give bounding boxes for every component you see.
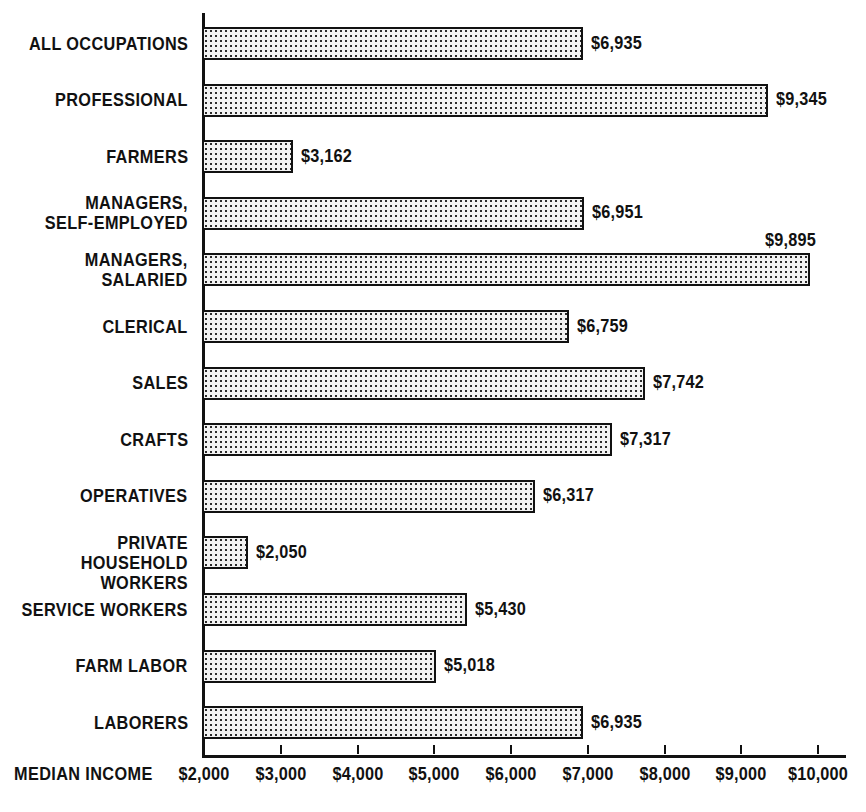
x-axis-tick-label: $2,000 (179, 764, 230, 785)
bar (202, 140, 293, 173)
bar (202, 480, 535, 513)
category-label: CLERICAL (103, 317, 188, 337)
category-label: OPERATIVES (81, 486, 188, 506)
bar (202, 84, 768, 117)
x-axis-line (202, 755, 846, 758)
x-axis-tick-label: $8,000 (639, 764, 690, 785)
bar-value-label: $9,345 (776, 89, 827, 110)
x-axis-tick (817, 745, 819, 754)
bar-value-label: $9,895 (765, 230, 816, 251)
category-label: LABORERS (94, 713, 188, 733)
bar-value-label: $6,951 (592, 202, 643, 223)
x-axis-tick (587, 745, 589, 754)
category-label: SERVICE WORKERS (22, 600, 188, 620)
x-axis-tick (740, 745, 742, 754)
bar-value-label: $6,317 (543, 485, 594, 506)
category-label: MANAGERS, SELF-EMPLOYED (45, 193, 188, 233)
x-axis-tick (664, 745, 666, 754)
bar (202, 253, 810, 286)
bar-value-label: $7,317 (620, 429, 671, 450)
bar (202, 310, 569, 343)
bar (202, 650, 436, 683)
bar-value-label: $3,162 (301, 146, 352, 167)
x-axis-tick (433, 745, 435, 754)
median-income-bar-chart: $2,000$3,000$4,000$5,000$6,000$7,000$8,0… (0, 0, 866, 812)
bar-value-label: $2,050 (256, 542, 307, 563)
x-axis-tick-label: $3,000 (255, 764, 306, 785)
category-label: FARM LABOR (76, 656, 188, 676)
bar (202, 593, 467, 626)
x-axis-tick-label: $9,000 (716, 764, 767, 785)
category-label: ALL OCCUPATIONS (29, 34, 188, 54)
bar (202, 367, 645, 400)
bar (202, 706, 583, 739)
category-label: PRIVATE HOUSEHOLD WORKERS (13, 533, 188, 593)
bar-value-label: $6,935 (591, 33, 642, 54)
bar (202, 27, 583, 60)
category-label: CRAFTS (120, 430, 188, 450)
plot-area: $2,000$3,000$4,000$5,000$6,000$7,000$8,0… (0, 0, 866, 812)
x-axis-tick-label: $4,000 (332, 764, 383, 785)
category-label: PROFESSIONAL (55, 90, 188, 110)
x-axis-title: MEDIAN INCOME (14, 764, 153, 785)
bar-value-label: $5,430 (475, 599, 526, 620)
x-axis-tick (280, 745, 282, 754)
category-label: SALES (132, 373, 188, 393)
x-axis-tick-label: $5,000 (409, 764, 460, 785)
bar-value-label: $6,759 (577, 316, 628, 337)
bar-value-label: $6,935 (591, 712, 642, 733)
bar (202, 423, 612, 456)
x-axis-tick-label: $7,000 (562, 764, 613, 785)
x-axis-tick (510, 745, 512, 754)
bar-value-label: $7,742 (653, 372, 704, 393)
category-label: MANAGERS, SALARIED (85, 250, 188, 290)
x-axis-tick-label: $10,000 (788, 764, 848, 785)
bar (202, 536, 248, 569)
bar-value-label: $5,018 (444, 655, 495, 676)
category-label: FARMERS (106, 147, 188, 167)
x-axis-tick (357, 745, 359, 754)
x-axis-tick-label: $6,000 (486, 764, 537, 785)
bar (202, 197, 584, 230)
